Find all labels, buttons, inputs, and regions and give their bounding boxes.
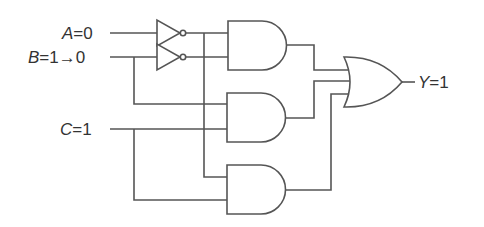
wire-and2-to-or [285, 81, 350, 118]
inverted-wires [186, 33, 228, 177]
and-output-wires [285, 45, 350, 190]
input-label-c: C=1 [60, 120, 92, 139]
and-gate-2 [227, 93, 286, 142]
output-label-y: Y=1 [418, 73, 449, 92]
or-gate [344, 57, 402, 107]
wire-b-to-and2 [134, 57, 227, 104]
wire-and1-to-or [286, 45, 349, 70]
input-label-a: A=0 [61, 24, 93, 43]
and-gate-3 [227, 165, 286, 214]
input-label-b: B=1→0 [28, 48, 85, 67]
not-gate-b [157, 44, 186, 70]
and-gate-1 [228, 21, 286, 70]
wire-a-not-to-and3 [204, 33, 227, 177]
wire-and3-to-or [285, 94, 349, 190]
wire-c-to-and3 [134, 129, 227, 200]
not-gate-a [157, 20, 186, 46]
logic-circuit-diagram: A=0 B=1→0 C=1 Y=1 [0, 0, 484, 227]
